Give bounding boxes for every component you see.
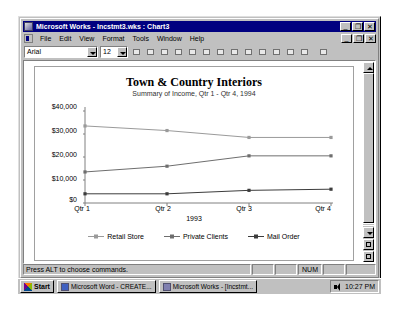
- doc-minimize-icon: _: [342, 34, 351, 41]
- font-size-value: 12: [101, 47, 117, 57]
- easy-calc-icon[interactable]: [270, 46, 283, 58]
- status-pane-4: [346, 264, 376, 275]
- y-tick-label-40000: $40,000: [35, 103, 77, 110]
- close-icon: ✕: [365, 23, 374, 30]
- legend-item-retail-store[interactable]: Retail Store: [88, 233, 144, 240]
- y-tick-label-30000: $30,000: [35, 127, 77, 134]
- maximize-button[interactable]: ❐: [352, 22, 363, 31]
- menu-item-window[interactable]: Window: [153, 33, 186, 44]
- menu-item-view[interactable]: View: [75, 33, 98, 44]
- y-tick-label-20000: $20,000: [35, 151, 77, 158]
- menu-item-format[interactable]: Format: [98, 33, 128, 44]
- minimize-icon: _: [341, 22, 350, 29]
- taskbar-label-works: Microsoft Works - [Incstmt...: [173, 283, 253, 290]
- x-tick-label-qtr3: Qtr 3: [221, 205, 267, 212]
- works-app-icon: [24, 22, 33, 31]
- speaker-icon[interactable]: [334, 283, 342, 291]
- chart-legend: Retail Store Private Clients: [35, 233, 353, 240]
- taskbar-label-word: Microsoft Word - CREATE...: [71, 283, 152, 290]
- chevron-down-icon[interactable]: [87, 47, 97, 57]
- legend-item-private-clients[interactable]: Private Clients: [164, 233, 228, 240]
- font-name-combo[interactable]: Arial: [24, 46, 98, 58]
- clipboard-icon[interactable]: [242, 46, 255, 58]
- font-size-combo[interactable]: 12: [100, 46, 128, 58]
- num-lock-indicator: NUM: [298, 264, 322, 275]
- taskbar-button-works[interactable]: Microsoft Works - [Incstmt...: [159, 280, 257, 293]
- document-minimize-button[interactable]: _: [341, 34, 352, 43]
- scroll-down-icon[interactable]: [363, 227, 374, 238]
- legend-label-mail-order: Mail Order: [267, 233, 300, 240]
- chart-svg: [83, 107, 333, 207]
- system-tray: 10:27 PM: [330, 280, 379, 293]
- doc-restore-icon: ❐: [354, 35, 363, 42]
- status-pane-2: [275, 264, 297, 275]
- document-menu-icon[interactable]: [24, 34, 33, 43]
- start-button[interactable]: Start: [20, 280, 54, 293]
- desktop-background: Microsoft Works - Incstmt3.wks : Chart3 …: [0, 0, 399, 313]
- spellcheck-icon[interactable]: [228, 46, 241, 58]
- document-control-buttons: _ ❐ ✕: [341, 34, 376, 43]
- menu-item-tools[interactable]: Tools: [129, 33, 153, 44]
- x-tick-label-qtr2: Qtr 2: [140, 205, 186, 212]
- status-message: Press ALT to choose commands.: [23, 264, 251, 275]
- plot-area: [83, 107, 333, 175]
- maximize-icon: ❐: [353, 23, 362, 30]
- legend-label-private-clients: Private Clients: [183, 233, 228, 240]
- exit-icon[interactable]: [298, 46, 311, 58]
- chart-icon[interactable]: [200, 46, 213, 58]
- window-control-buttons: _ ❐ ✕: [340, 22, 375, 31]
- menu-item-help[interactable]: Help: [186, 33, 208, 44]
- insert-chart-icon[interactable]: [214, 46, 227, 58]
- menu-item-file[interactable]: File: [36, 33, 55, 44]
- doc-close-icon: ✕: [366, 35, 375, 42]
- vertical-scrollbar[interactable]: [363, 62, 374, 262]
- legend-marker-icon: [164, 233, 180, 240]
- document-restore-button[interactable]: ❐: [353, 34, 364, 43]
- font-name-value: Arial: [25, 47, 87, 57]
- save-icon[interactable]: [144, 46, 157, 58]
- windows-flag-icon: [24, 283, 32, 291]
- help-icon[interactable]: [317, 46, 330, 58]
- new-icon[interactable]: [130, 46, 143, 58]
- status-pane-3: [323, 264, 345, 275]
- zoom-in-icon[interactable]: [363, 251, 374, 262]
- menu-item-edit[interactable]: Edit: [55, 33, 75, 44]
- scrollbar-track[interactable]: [363, 73, 374, 227]
- clock[interactable]: 10:27 PM: [345, 283, 375, 290]
- copy-icon[interactable]: [186, 46, 199, 58]
- works-icon: [163, 283, 171, 291]
- close-button[interactable]: ✕: [364, 22, 375, 31]
- window-inner-frame: Microsoft Works - Incstmt3.wks : Chart3 …: [20, 18, 379, 278]
- scroll-up-icon[interactable]: [363, 62, 374, 73]
- x-tick-label-qtr4: Qtr 4: [300, 205, 346, 212]
- taskbar-button-word[interactable]: Microsoft Word - CREATE...: [57, 280, 156, 293]
- status-pane-1: [252, 264, 274, 275]
- legend-item-mail-order[interactable]: Mail Order: [248, 233, 300, 240]
- word-icon: [61, 283, 69, 291]
- chart-subtitle: Summary of Income, Qtr 1 - Qtr 4, 1994: [35, 90, 353, 97]
- window-title: Microsoft Works - Incstmt3.wks : Chart3: [36, 22, 340, 31]
- start-button-label: Start: [34, 283, 50, 290]
- x-tick-label-qtr1: Qtr 1: [59, 205, 105, 212]
- x-axis-title: 1993: [35, 215, 353, 222]
- document-close-button[interactable]: ✕: [365, 34, 376, 43]
- toolbar-separator: [312, 46, 316, 58]
- legend-marker-icon: [88, 233, 104, 240]
- y-tick-label-0: $0: [35, 196, 77, 203]
- scrollbar-thumb[interactable]: [363, 73, 374, 223]
- print-icon[interactable]: [158, 46, 171, 58]
- minimize-button[interactable]: _: [340, 22, 351, 31]
- task-launcher-icon[interactable]: [284, 46, 297, 58]
- title-bar[interactable]: Microsoft Works - Incstmt3.wks : Chart3 …: [23, 21, 376, 32]
- chevron-down-icon[interactable]: [117, 47, 127, 57]
- legend-label-retail-store: Retail Store: [107, 233, 144, 240]
- application-window: Microsoft Works - Incstmt3.wks : Chart3 …: [18, 16, 381, 280]
- menu-bar: File Edit View Format Tools Window Help …: [23, 33, 376, 44]
- y-tick-label-10000: $10,000: [35, 175, 77, 182]
- chart-client-area: Town & Country Interiors Summary of Inco…: [23, 60, 376, 264]
- toolbar: Arial 12: [23, 45, 376, 59]
- address-book-icon[interactable]: [256, 46, 269, 58]
- zoom-out-icon[interactable]: [363, 239, 374, 250]
- chart-sheet[interactable]: Town & Country Interiors Summary of Inco…: [34, 66, 354, 261]
- print-preview-icon[interactable]: [172, 46, 185, 58]
